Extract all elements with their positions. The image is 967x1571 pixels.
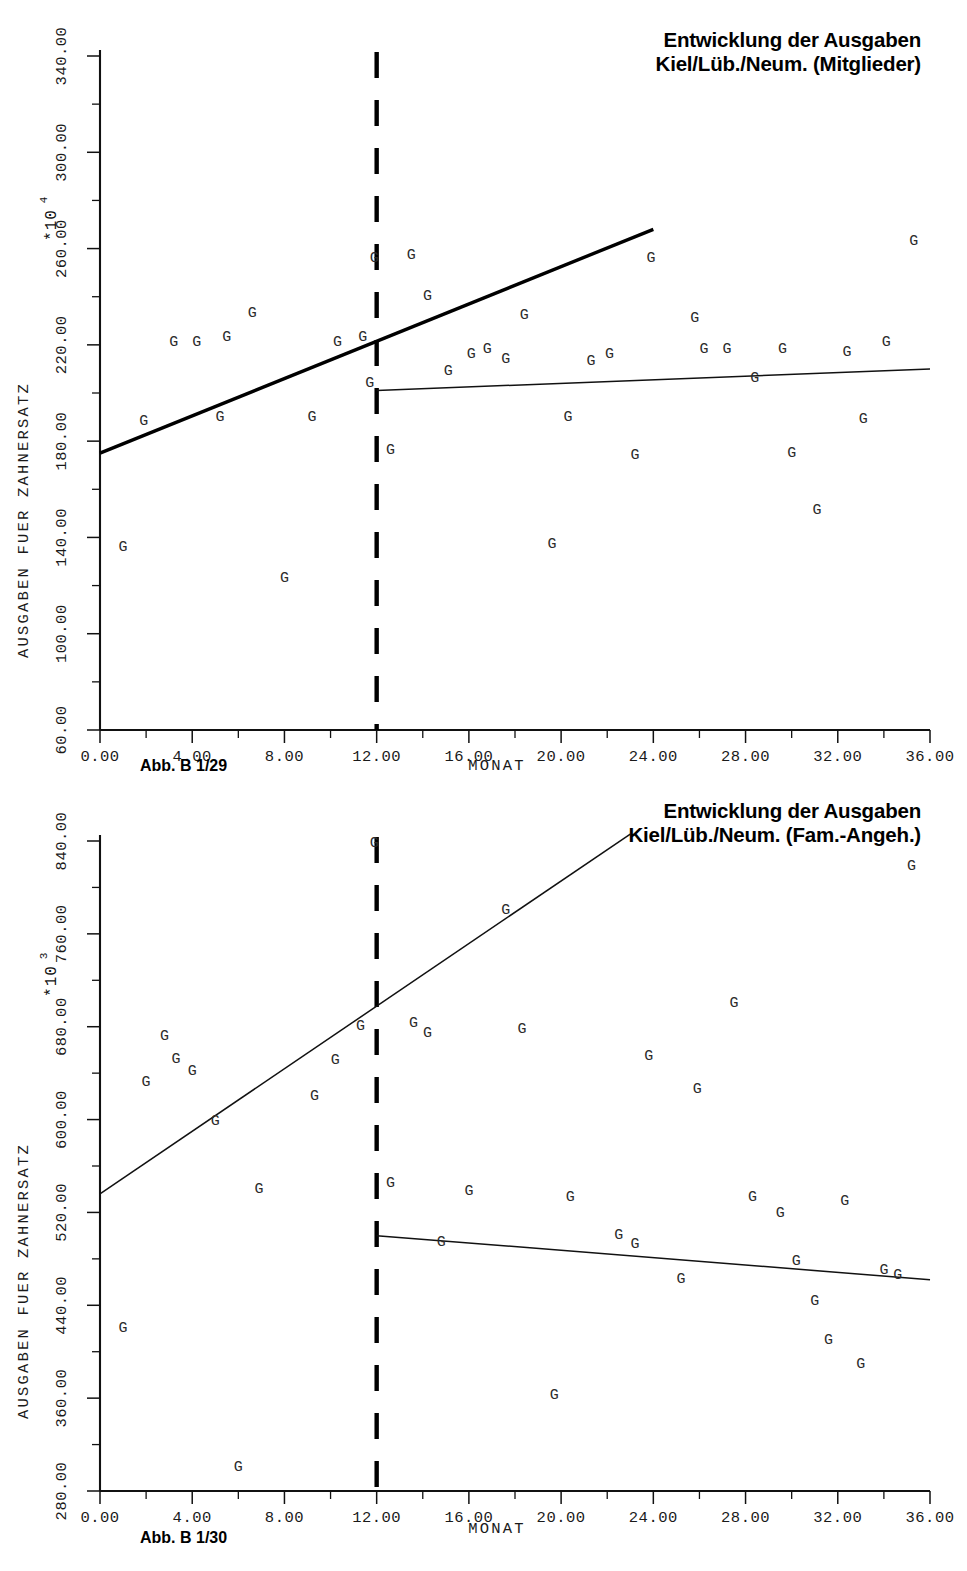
data-point-marker: G: [501, 902, 510, 919]
data-point-marker: G: [907, 858, 916, 875]
y-tick-label: 760.00: [53, 904, 71, 963]
data-point-marker: G: [333, 334, 342, 351]
data-point-marker: G: [331, 1052, 340, 1069]
x-axis-title: MONAT: [468, 757, 526, 775]
scatter-plot-mitglieder: 60.00100.00140.00180.00220.00260.00300.0…: [0, 0, 967, 790]
y-axis-ticks: 280.00360.00440.00520.00600.00680.00760.…: [53, 812, 100, 1521]
data-point-marker: G: [409, 1015, 418, 1032]
x-axis-title: MONAT: [468, 1520, 526, 1538]
data-point-marker: G: [358, 329, 367, 346]
data-point-marker: G: [776, 1205, 785, 1222]
multiplier-base: *10: [43, 209, 61, 241]
data-point-marker: G: [356, 1018, 365, 1035]
data-point-marker: G: [748, 1189, 757, 1206]
data-point-marker: G: [215, 409, 224, 426]
y-tick-label: 280.00: [53, 1462, 71, 1521]
data-point-marker: G: [644, 1048, 653, 1065]
data-point-marker: G: [467, 346, 476, 363]
data-point-marker: G: [142, 1074, 151, 1091]
data-point-marker: G: [587, 353, 596, 370]
post-intervention-trend: [377, 1236, 930, 1280]
data-point-marker: G: [160, 1028, 169, 1045]
data-point-marker: G: [813, 502, 822, 519]
data-point-marker: G: [464, 1183, 473, 1200]
data-point-marker: G: [693, 1081, 702, 1098]
chart-panel-mitglieder: Entwicklung der Ausgaben Kiel/Lüb./Neum.…: [0, 0, 967, 790]
y-tick-label: 100.00: [53, 604, 71, 663]
y-tick-label: 140.00: [53, 508, 71, 567]
x-tick-label: 8.00: [265, 1509, 304, 1527]
x-tick-label: 36.00: [905, 1509, 954, 1527]
y-tick-label: 180.00: [53, 412, 71, 471]
data-points: GGGGGGGGGGGGGGGGGGGGGGGGGGGGGGGGGGGGGG: [119, 233, 919, 587]
data-point-marker: G: [879, 1262, 888, 1279]
data-point-marker: G: [792, 1253, 801, 1270]
data-point-marker: G: [630, 447, 639, 464]
data-point-marker: G: [564, 409, 573, 426]
data-point-marker: G: [192, 334, 201, 351]
data-point-marker: G: [550, 1387, 559, 1404]
x-tick-label: 28.00: [721, 1509, 770, 1527]
multiplier-exponent: 3: [38, 953, 50, 960]
post-intervention-trend: [377, 369, 930, 391]
data-point-marker: G: [248, 305, 257, 322]
data-point-marker: G: [119, 539, 128, 556]
data-point-marker: G: [840, 1193, 849, 1210]
y-tick-label: 340.00: [53, 27, 71, 86]
data-point-marker: G: [444, 363, 453, 380]
data-point-marker: G: [501, 351, 510, 368]
data-point-marker: G: [614, 1227, 623, 1244]
data-point-marker: G: [547, 536, 556, 553]
data-point-marker: G: [365, 375, 374, 392]
x-tick-label: 20.00: [537, 748, 586, 766]
x-tick-label: 36.00: [905, 748, 954, 766]
x-tick-label: 28.00: [721, 748, 770, 766]
data-point-marker: G: [119, 1320, 128, 1337]
data-point-marker: G: [676, 1271, 685, 1288]
data-point-marker: G: [647, 250, 656, 267]
x-tick-label: 24.00: [629, 1509, 678, 1527]
multiplier-base: *10: [43, 965, 61, 997]
data-point-marker: G: [370, 835, 379, 852]
data-point-marker: G: [787, 445, 796, 462]
y-tick-label: 680.00: [53, 997, 71, 1056]
data-point-marker: G: [690, 310, 699, 327]
x-tick-label: 8.00: [265, 748, 304, 766]
y-tick-label: 840.00: [53, 812, 71, 871]
data-point-marker: G: [842, 344, 851, 361]
y-axis-title: AUSGABEN FUER ZAHNERSATZ: [15, 382, 33, 658]
data-point-marker: G: [423, 288, 432, 305]
data-point-marker: G: [810, 1293, 819, 1310]
chart-panel-fam-angeh: Entwicklung der Ausgaben Kiel/Lüb./Neum.…: [0, 781, 967, 1571]
x-tick-label: 32.00: [813, 1509, 862, 1527]
multiplier-exponent: 4: [38, 196, 50, 203]
data-point-marker: G: [909, 233, 918, 250]
x-tick-label: 4.00: [173, 1509, 212, 1527]
figure-caption-abb-b-1-30: Abb. B 1/30: [140, 1529, 227, 1547]
data-point-marker: G: [255, 1181, 264, 1198]
y-axis-title: AUSGABEN FUER ZAHNERSATZ: [15, 1143, 33, 1419]
figure-caption-abb-b-1-29: Abb. B 1/29: [140, 757, 227, 775]
data-point-marker: G: [778, 341, 787, 358]
data-points: GGGGGGGGGGGGGGGGGGGGGGGGGGGGGGGGGGGGG: [119, 835, 917, 1476]
data-point-marker: G: [517, 1021, 526, 1038]
axes: [100, 835, 930, 1491]
x-tick-label: 12.00: [352, 748, 401, 766]
data-point-marker: G: [824, 1332, 833, 1349]
y-axis-ticks: 60.00100.00140.00180.00220.00260.00300.0…: [53, 27, 100, 755]
data-point-marker: G: [723, 341, 732, 358]
data-point-marker: G: [308, 409, 317, 426]
x-tick-label: 20.00: [537, 1509, 586, 1527]
data-point-marker: G: [222, 329, 231, 346]
data-point-marker: G: [423, 1025, 432, 1042]
data-point-marker: G: [520, 307, 529, 324]
data-point-marker: G: [386, 1175, 395, 1192]
data-point-marker: G: [882, 334, 891, 351]
data-point-marker: G: [437, 1234, 446, 1251]
data-point-marker: G: [750, 370, 759, 387]
pre-intervention-trend: [100, 834, 630, 1194]
data-point-marker: G: [859, 411, 868, 428]
y-tick-label: 600.00: [53, 1090, 71, 1149]
x-tick-label: 12.00: [352, 1509, 401, 1527]
y-tick-label: 360.00: [53, 1369, 71, 1428]
